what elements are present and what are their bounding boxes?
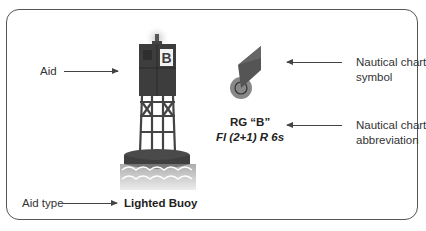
lighted-buoy-illustration: B — [118, 22, 198, 192]
abbreviation-line1: RG “B” — [220, 115, 280, 129]
abbreviation-line2: Fl (2+1) R 6s — [205, 130, 295, 144]
aid-type-arrow — [63, 203, 117, 204]
chart-symbol-label-line1: Nautical chart — [356, 55, 426, 69]
chart-abbreviation-label-line2: abbreviation — [356, 133, 419, 147]
chart-symbol-label-line2: symbol — [356, 70, 392, 84]
symbol-arrow — [287, 62, 342, 63]
nautical-chart-symbol-icon — [228, 44, 274, 100]
buoy-letter: B — [161, 50, 171, 66]
chart-abbreviation-label-line1: Nautical chart — [356, 118, 426, 132]
aid-type-label: Aid type — [22, 196, 64, 210]
aid-type-value: Lighted Buoy — [124, 196, 197, 210]
diagram-frame — [6, 9, 418, 220]
aid-arrow — [64, 71, 118, 72]
aid-label: Aid — [40, 64, 57, 78]
abbreviation-arrow — [287, 125, 342, 126]
